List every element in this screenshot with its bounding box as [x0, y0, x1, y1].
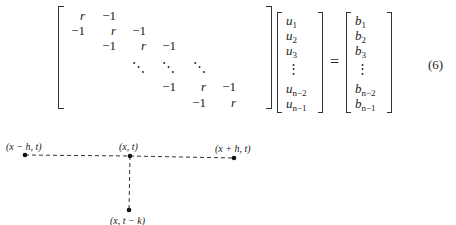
- stencil-lines: [0, 0, 456, 225]
- point-label-center: (x, t): [119, 142, 138, 152]
- grid-point-bottom: [127, 208, 132, 213]
- grid-point-right: [232, 156, 237, 161]
- point-label-bottom: (x, t − k): [110, 216, 145, 225]
- point-label-left: (x − h, t): [6, 142, 42, 152]
- grid-point-center: [128, 154, 133, 159]
- point-label-right: (x + h, t): [215, 144, 251, 154]
- grid-point-left: [23, 153, 28, 158]
